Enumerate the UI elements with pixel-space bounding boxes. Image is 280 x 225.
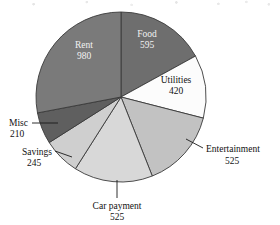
- label-food-value: 595: [140, 40, 155, 50]
- label-savings-value: 245: [27, 158, 42, 168]
- pie-chart-figure: Food 595 Utilities 420 Rent 980 Entertai…: [0, 0, 280, 225]
- label-food-name: Food: [137, 29, 157, 39]
- label-rent-value: 980: [77, 51, 92, 61]
- label-car-payment-name: Car payment: [93, 201, 142, 211]
- label-misc-name: Misc: [9, 118, 28, 128]
- label-entertainment-name: Entertainment: [206, 144, 260, 154]
- pie-chart-svg: Food 595 Utilities 420 Rent 980 Entertai…: [0, 0, 280, 225]
- label-utilities-name: Utilities: [161, 75, 192, 85]
- label-utilities-value: 420: [169, 86, 184, 96]
- pie-slices: [36, 12, 206, 182]
- label-car-payment-value: 525: [110, 212, 125, 222]
- label-misc-value: 210: [10, 129, 25, 139]
- pie-slice-rent[interactable]: [36, 12, 121, 113]
- label-entertainment-value: 525: [225, 156, 240, 166]
- label-savings-name: Savings: [22, 147, 52, 157]
- label-rent-name: Rent: [75, 40, 93, 50]
